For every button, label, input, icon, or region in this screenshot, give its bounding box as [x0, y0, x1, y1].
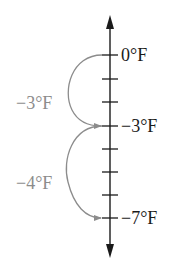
temperature-number-line-diagram: 0°F −3°F −7°F −3°F −4°F [0, 0, 179, 278]
jump-arc-1 [68, 55, 102, 126]
value-label-neg3: −3°F [121, 116, 157, 136]
value-label-0: 0°F [121, 45, 147, 65]
arrow-down-icon [106, 244, 114, 258]
jump-label-2: −4°F [16, 173, 52, 193]
jump-label-1: −3°F [16, 93, 52, 113]
value-label-neg7: −7°F [121, 208, 157, 228]
arrow-up-icon [106, 15, 114, 29]
jump-arc-2 [66, 126, 102, 218]
vertical-axis [106, 15, 114, 258]
